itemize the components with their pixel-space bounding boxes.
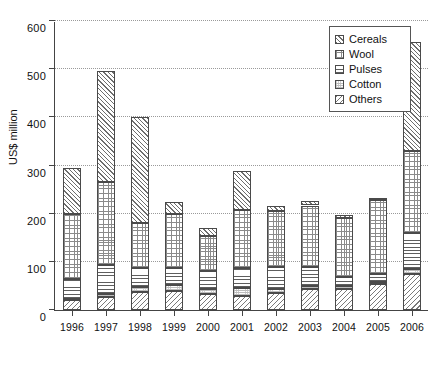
x-axis-tick [208,310,209,316]
y-axis-tick [49,213,55,214]
x-axis-tick [344,310,345,316]
stacked-bar[interactable] [233,171,251,310]
bar-segment-cotton[interactable] [369,282,387,284]
y-axis-tick [49,68,55,69]
x-axis-tick [412,310,413,316]
legend-item-cereals[interactable]: Cereals [335,32,405,46]
stacked-bar[interactable] [199,228,217,310]
bar-segment-cereals[interactable] [199,228,217,236]
x-axis-tick-label: 2001 [230,321,254,333]
bar-segment-wool[interactable] [301,206,319,268]
bar-segment-others[interactable] [165,291,183,310]
legend-item-label: Others [349,94,382,105]
x-axis-tick [72,310,73,316]
x-axis-tick-label: 2004 [332,321,356,333]
x-axis-tick-label: 2002 [264,321,288,333]
bar-segment-wool[interactable] [267,211,285,267]
legend-item-label: Cereals [349,34,387,45]
x-axis-tick [310,310,311,316]
stacked-bar[interactable] [267,206,285,310]
bar-segment-wool[interactable] [165,214,183,268]
bar-segment-pulses[interactable] [301,267,319,286]
gridline [55,20,428,21]
bar-segment-cotton[interactable] [403,269,421,274]
legend-item-label: Wool [349,49,374,60]
bar-segment-cereals[interactable] [301,201,319,206]
bar-segment-others[interactable] [233,296,251,310]
bar-segment-others[interactable] [335,289,353,310]
bar-segment-cotton[interactable] [335,286,353,288]
bar-segment-wool[interactable] [233,210,251,268]
bar-segment-pulses[interactable] [165,268,183,285]
bar-segment-wool[interactable] [97,182,115,265]
bar-segment-cereals[interactable] [267,206,285,211]
bar-segment-cereals[interactable] [335,215,353,218]
stacked-bar[interactable] [97,71,115,310]
horizontal-lines-swatch [335,65,344,74]
bar-segment-cotton[interactable] [267,289,285,293]
y-axis-tick [49,261,55,262]
bar-segment-others[interactable] [97,297,115,310]
fine-grid-swatch [335,50,344,59]
bar-segment-others[interactable] [63,300,81,310]
bar-segment-pulses[interactable] [131,268,149,287]
bar-segment-pulses[interactable] [63,279,81,300]
diagonal-backslash-swatch [335,95,344,104]
y-axis-title: US$ million [7,109,19,165]
bar-segment-pulses[interactable] [267,267,285,289]
bar-segment-others[interactable] [199,294,217,310]
stacked-bar[interactable] [369,198,387,310]
y-axis-tick [49,309,55,310]
stacked-bar[interactable] [301,201,319,310]
y-axis-tick [49,20,55,21]
bar-segment-cotton[interactable] [233,288,251,296]
bar-segment-cereals[interactable] [369,198,387,200]
bar-segment-wool[interactable] [131,223,149,267]
bar-segment-pulses[interactable] [335,277,353,287]
bar-segment-cereals[interactable] [63,168,81,214]
legend-item-cotton[interactable]: Cotton [335,77,405,91]
bar-segment-wool[interactable] [335,218,353,277]
bar-segment-cotton[interactable] [97,294,115,297]
bar-segment-cereals[interactable] [131,117,149,223]
x-axis-tick [276,310,277,316]
x-axis-tick-label: 2006 [400,321,424,333]
bar-segment-others[interactable] [267,293,285,310]
bar-segment-cotton[interactable] [199,289,217,294]
diagonal-slash-swatch [335,35,344,44]
legend-item-label: Cotton [349,79,381,90]
bar-segment-cotton[interactable] [165,285,183,291]
legend-item-pulses[interactable]: Pulses [335,62,405,76]
bar-segment-others[interactable] [403,274,421,310]
legend-item-others[interactable]: Others [335,92,405,106]
x-axis-tick-label: 1998 [128,321,152,333]
stacked-bar[interactable] [165,202,183,310]
bar-segment-cereals[interactable] [97,71,115,182]
stacked-bar[interactable] [131,117,149,310]
bar-segment-wool[interactable] [63,214,81,279]
stacked-bar[interactable] [335,215,353,310]
legend-item-label: Pulses [349,64,382,75]
bar-segment-pulses[interactable] [97,265,115,294]
bar-segment-others[interactable] [131,292,149,310]
bar-segment-cereals[interactable] [165,202,183,214]
y-axis-tick [49,116,55,117]
bar-segment-cereals[interactable] [233,171,251,210]
bar-segment-cotton[interactable] [301,286,319,289]
y-axis-tick [49,165,55,166]
x-axis-tick-label: 2000 [196,321,220,333]
bar-segment-others[interactable] [301,289,319,310]
bar-segment-pulses[interactable] [369,274,387,282]
bar-segment-wool[interactable] [403,151,421,233]
x-axis-tick-label: 1999 [162,321,186,333]
bar-segment-pulses[interactable] [199,271,217,289]
legend-item-wool[interactable]: Wool [335,47,405,61]
bar-segment-pulses[interactable] [233,268,251,288]
bar-segment-others[interactable] [369,284,387,310]
bar-segment-cotton[interactable] [131,287,149,292]
stacked-bar[interactable] [63,168,81,310]
x-axis-tick [378,310,379,316]
bar-segment-wool[interactable] [369,200,387,275]
bar-segment-wool[interactable] [199,236,217,271]
bar-segment-pulses[interactable] [403,233,421,269]
